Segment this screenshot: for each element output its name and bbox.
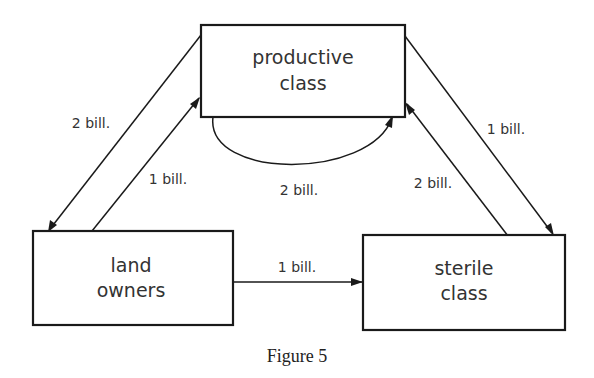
node-label: class bbox=[279, 72, 326, 94]
node-label: owners bbox=[97, 279, 166, 301]
edge-productive-self-loop bbox=[213, 115, 393, 164]
node-label: class bbox=[440, 282, 487, 304]
node-label: sterile bbox=[434, 257, 493, 279]
edge-landowners-to-sterile bbox=[233, 278, 363, 286]
edge-productive-to-sterile bbox=[405, 36, 554, 236]
edge-productive-to-landowners bbox=[48, 35, 201, 232]
edge-label: 1 bill. bbox=[487, 121, 525, 137]
node-label: land bbox=[110, 254, 151, 276]
edge-label: 1 bill. bbox=[278, 259, 316, 275]
node-label: productive bbox=[252, 46, 353, 68]
edge-label: 2 bill. bbox=[414, 175, 452, 191]
node-land-owners: land owners bbox=[33, 231, 233, 325]
arrowhead-icon bbox=[351, 278, 363, 286]
figure-caption: Figure 5 bbox=[267, 346, 328, 366]
node-productive-class: productive class bbox=[201, 25, 405, 117]
edge-label: 2 bill. bbox=[72, 115, 110, 131]
edge-label: 1 bill. bbox=[149, 171, 187, 187]
circulation-diagram: productive class land owners sterile cla… bbox=[0, 0, 594, 378]
node-sterile-class: sterile class bbox=[363, 235, 565, 330]
edge-label: 2 bill. bbox=[280, 182, 318, 198]
